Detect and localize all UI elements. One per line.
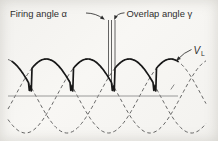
load-voltage-leader-line bbox=[178, 50, 192, 60]
firing-angle-arrowhead-icon bbox=[100, 16, 105, 20]
load-voltage-subscript: L bbox=[201, 50, 205, 57]
rectifier-waveform-diagram: Firing angle α Overlap angle γ V L bbox=[0, 0, 218, 141]
firing-angle-label: Firing angle α bbox=[10, 8, 68, 19]
axis-end-tick bbox=[171, 85, 174, 90]
firing-angle-leader-line bbox=[86, 13, 103, 19]
figure-canvas: Firing angle α Overlap angle γ V L bbox=[0, 0, 218, 141]
load-voltage-curve bbox=[12, 59, 178, 91]
overlap-angle-label: Overlap angle γ bbox=[127, 8, 193, 19]
